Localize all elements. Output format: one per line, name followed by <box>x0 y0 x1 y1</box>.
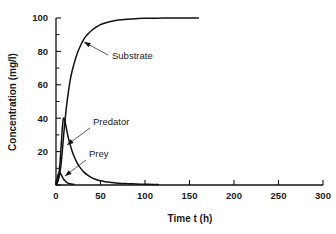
chart-figure: 20406080100 050100150200250300 Substrate… <box>0 0 336 234</box>
x-tick-label: 150 <box>182 190 198 201</box>
arrowhead-substrate <box>84 42 91 47</box>
x-axis-tick-labels: 050100150200250300 <box>53 190 331 201</box>
y-tick-label: 60 <box>37 79 48 90</box>
data-series-group <box>56 18 198 185</box>
y-axis-title: Concentration (mg/l) <box>7 53 18 151</box>
x-axis-ticks <box>56 180 323 185</box>
chart-canvas: 20406080100 050100150200250300 Substrate… <box>0 0 336 234</box>
series-label-predator: Predator <box>93 116 129 127</box>
y-axis-tick-labels: 20406080100 <box>32 12 48 157</box>
series-annotations: SubstratePredatorPrey <box>65 42 153 176</box>
series-label-prey: Prey <box>89 148 109 159</box>
x-tick-label: 50 <box>95 190 106 201</box>
y-tick-label: 100 <box>32 12 48 23</box>
x-tick-label: 0 <box>53 190 58 201</box>
arrowhead-prey <box>65 170 72 176</box>
x-tick-label: 300 <box>315 190 331 201</box>
series-curve-substrate <box>56 18 198 185</box>
y-tick-label: 80 <box>37 46 48 57</box>
x-tick-label: 250 <box>271 190 287 201</box>
x-tick-label: 200 <box>226 190 242 201</box>
y-tick-label: 40 <box>37 113 48 124</box>
x-axis-title: Time t (h) <box>168 213 213 224</box>
y-tick-label: 20 <box>37 146 48 157</box>
x-tick-label: 100 <box>137 190 153 201</box>
series-label-substrate: Substrate <box>112 50 153 61</box>
